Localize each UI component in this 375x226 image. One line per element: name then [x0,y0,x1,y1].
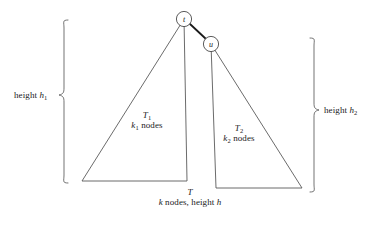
height-h1-label: height h1 [14,90,47,100]
height-h2-brace [310,38,319,192]
subtree-t2-triangle [211,44,302,188]
height-h1-brace-path [59,20,68,183]
height-h2-prefix: height [324,105,349,115]
edge-t-to-u [190,24,206,39]
tree-diagram-figure: t u height h1 height h2 T1 k1 nodes T2 k… [0,0,375,226]
node-t-label: t [176,15,192,24]
subtree-t1-triangle [82,19,187,181]
caption-detail: k nodes, height h [132,197,248,207]
caption-detail-text: nodes, height [163,197,217,207]
subtree-t1-outline [82,19,187,181]
caption-tree-name-var: T [187,187,192,197]
height-h1-brace [59,20,68,183]
height-h1-prefix: height [14,90,39,100]
subtree-t1-name: T1 [119,110,175,120]
caption-tree-name: T [132,187,248,197]
subtree-t2-name-sub: 2 [240,127,243,134]
subtree-t1-count-word: nodes [141,120,163,130]
subtree-t2-count: k2 nodes [211,133,267,143]
subtree-t1-count-sub: 1 [135,124,138,131]
figure-caption: T k nodes, height h [132,187,248,208]
subtree-t2-count-sub: 2 [227,137,230,144]
height-h1-sub: 1 [44,94,47,101]
subtree-t1-label: T1 k1 nodes [119,110,175,131]
subtree-t2-name: T2 [211,123,267,133]
height-h2-sub: 2 [354,109,357,116]
caption-detail-h: h [217,197,222,207]
height-h2-label: height h2 [324,105,357,115]
node-u-label: u [203,40,219,49]
subtree-t2-count-word: nodes [233,133,255,143]
subtree-t2-outline [211,44,302,188]
height-h2-brace-path [310,38,319,192]
subtree-t2-label: T2 k2 nodes [211,123,267,144]
subtree-t1-count: k1 nodes [119,120,175,130]
subtree-t1-name-sub: 1 [148,114,151,121]
